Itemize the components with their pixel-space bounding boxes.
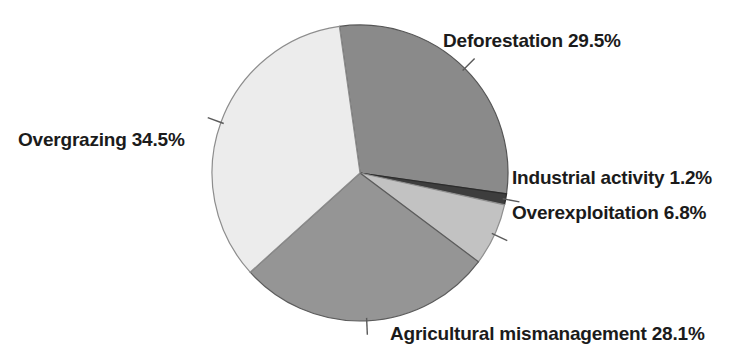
slice-label-overexploitation: Overexploitation 6.8% — [512, 203, 706, 222]
slice-label-overgrazing: Overgrazing 34.5% — [18, 130, 185, 149]
slice-label-deforestation: Deforestation 29.5% — [443, 31, 621, 50]
leader-line-agricultural-mismanagement — [367, 318, 368, 335]
leader-line-deforestation — [463, 59, 475, 71]
slice-label-agricultural-mismanagement: Agricultural mismanagement 28.1% — [390, 324, 705, 343]
slice-label-industrial-activity: Industrial activity 1.2% — [512, 168, 712, 187]
pie-chart-screenshot: Deforestation 29.5% Overgrazing 34.5% In… — [0, 0, 743, 359]
